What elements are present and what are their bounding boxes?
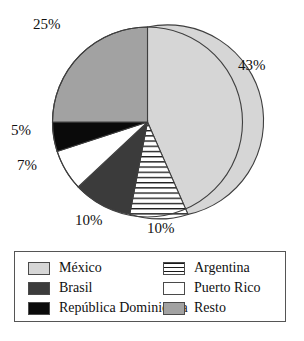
pie-chart-area: 25% 43% 5% 7% 10% 10% [0,0,304,245]
legend-swatch-puerto-rico [163,282,185,295]
chart-legend: México Brasil República Dominicana Argen… [14,251,286,322]
pie-label-mexico: 43% [238,58,266,73]
chart-page: 25% 43% 5% 7% 10% 10% México Brasil Repú… [0,0,304,341]
pie-label-argentina: 10% [147,221,175,236]
legend-swatch-brasil [28,282,50,295]
legend-label-mexico: México [59,260,102,276]
pie-chart-svg [0,0,304,245]
pie-slice-resto[interactable] [53,27,148,122]
legend-swatch-resto [163,302,185,315]
legend-label-argentina: Argentina [194,260,250,276]
legend-column-right: Argentina Puerto Rico Resto [163,258,261,318]
pie-label-brasil: 10% [75,213,103,228]
pie-label-republica-dominicana: 5% [11,123,31,138]
legend-swatch-argentina [163,262,185,275]
legend-label-resto: Resto [194,300,226,316]
legend-item-argentina[interactable]: Argentina [163,258,261,278]
legend-swatch-mexico [28,262,50,275]
pie-label-resto: 25% [33,17,61,32]
legend-item-puerto-rico[interactable]: Puerto Rico [163,278,261,298]
pie-label-puerto-rico: 7% [17,158,37,173]
legend-label-brasil: Brasil [59,280,92,296]
legend-swatch-republica-dominicana [28,302,50,315]
legend-label-puerto-rico: Puerto Rico [194,280,261,296]
legend-item-resto[interactable]: Resto [163,298,261,318]
